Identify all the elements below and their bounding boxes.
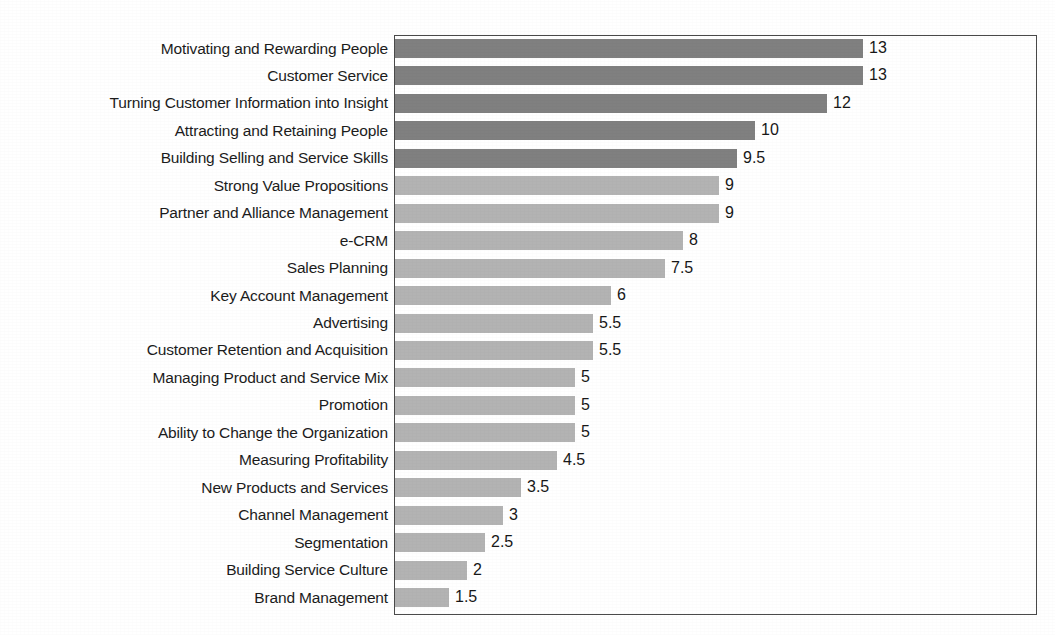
bar-row: 5.5	[395, 341, 1036, 360]
category-label: Key Account Management	[0, 286, 388, 305]
bar-value-label: 2	[473, 560, 482, 579]
bar-row: 13	[395, 39, 1036, 58]
bar	[395, 478, 521, 497]
bar-row: 13	[395, 66, 1036, 85]
bar	[395, 423, 575, 442]
bar-value-label: 5.5	[599, 340, 621, 359]
bar-row: 3.5	[395, 478, 1036, 497]
bar-value-label: 13	[869, 65, 887, 84]
bar	[395, 94, 827, 113]
bar-value-label: 1.5	[455, 587, 477, 606]
bar-row: 4.5	[395, 451, 1036, 470]
bar	[395, 231, 683, 250]
category-label: Motivating and Rewarding People	[0, 39, 388, 58]
bar	[395, 39, 863, 58]
bar	[395, 149, 737, 168]
bar	[395, 66, 863, 85]
plot-area: 131312109.59987.565.55.55554.53.532.521.…	[394, 35, 1037, 615]
bar	[395, 506, 503, 525]
bar-value-label: 13	[869, 38, 887, 57]
bar	[395, 204, 719, 223]
category-label: Managing Product and Service Mix	[0, 368, 388, 387]
bar-row: 9.5	[395, 149, 1036, 168]
bar-value-label: 7.5	[671, 258, 693, 277]
bar	[395, 176, 719, 195]
category-label: Customer Retention and Acquisition	[0, 340, 388, 359]
bar	[395, 121, 755, 140]
category-label: Building Service Culture	[0, 560, 388, 579]
category-label: Turning Customer Information into Insigh…	[0, 93, 388, 112]
bar-row: 9	[395, 204, 1036, 223]
category-label: Advertising	[0, 313, 388, 332]
bar	[395, 259, 665, 278]
category-label: Sales Planning	[0, 258, 388, 277]
bar-row: 2.5	[395, 533, 1036, 552]
bar	[395, 533, 485, 552]
category-axis-labels: Motivating and Rewarding PeopleCustomer …	[0, 35, 388, 615]
bar-row: 10	[395, 121, 1036, 140]
bar-row: 5.5	[395, 314, 1036, 333]
bar	[395, 588, 449, 607]
bar-row: 12	[395, 94, 1036, 113]
bar-value-label: 5	[581, 395, 590, 414]
category-label: New Products and Services	[0, 478, 388, 497]
bar-value-label: 2.5	[491, 532, 513, 551]
bar	[395, 368, 575, 387]
bar-row: 7.5	[395, 259, 1036, 278]
category-label: Measuring Profitability	[0, 450, 388, 469]
category-label: Segmentation	[0, 533, 388, 552]
category-label: Building Selling and Service Skills	[0, 148, 388, 167]
bar	[395, 561, 467, 580]
category-label: e-CRM	[0, 231, 388, 250]
bar-row: 5	[395, 396, 1036, 415]
bar-row: 9	[395, 176, 1036, 195]
bar-value-label: 3.5	[527, 477, 549, 496]
category-label: Ability to Change the Organization	[0, 423, 388, 442]
bar-row: 8	[395, 231, 1036, 250]
bar-value-label: 9.5	[743, 148, 765, 167]
bar	[395, 286, 611, 305]
bar-row: 5	[395, 423, 1036, 442]
bar	[395, 314, 593, 333]
bar-value-label: 12	[833, 93, 851, 112]
category-label: Customer Service	[0, 66, 388, 85]
bar-value-label: 8	[689, 230, 698, 249]
bar-row: 1.5	[395, 588, 1036, 607]
bar	[395, 451, 557, 470]
bar-row: 2	[395, 561, 1036, 580]
category-label: Channel Management	[0, 505, 388, 524]
bar	[395, 396, 575, 415]
bar-value-label: 3	[509, 505, 518, 524]
bar-value-label: 4.5	[563, 450, 585, 469]
category-label: Brand Management	[0, 588, 388, 607]
bar-value-label: 10	[761, 120, 779, 139]
bar-value-label: 9	[725, 203, 734, 222]
bar	[395, 341, 593, 360]
bar-value-label: 6	[617, 285, 626, 304]
bar-row: 3	[395, 506, 1036, 525]
bar-value-label: 5	[581, 422, 590, 441]
bar-value-label: 9	[725, 175, 734, 194]
bar-value-label: 5.5	[599, 313, 621, 332]
category-label: Partner and Alliance Management	[0, 203, 388, 222]
bar-row: 6	[395, 286, 1036, 305]
bar-row: 5	[395, 368, 1036, 387]
category-label: Attracting and Retaining People	[0, 121, 388, 140]
category-label: Promotion	[0, 395, 388, 414]
bar-chart-figure: Motivating and Rewarding PeopleCustomer …	[0, 0, 1055, 635]
bar-value-label: 5	[581, 367, 590, 386]
category-label: Strong Value Propositions	[0, 176, 388, 195]
